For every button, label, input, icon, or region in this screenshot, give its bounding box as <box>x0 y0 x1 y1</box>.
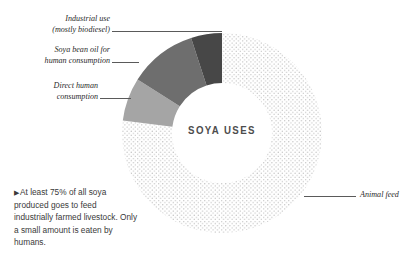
callout-soya-bean-oil-line2: human consumption <box>45 56 110 67</box>
infographic-canvas: SOYA USES Industrial use (mostly biodies… <box>0 0 416 271</box>
note-bullet-arrow-icon: ▶ <box>14 189 19 196</box>
callout-direct-human-consumption-line2: consumption <box>54 92 98 103</box>
callout-industrial-use-line1: Industrial use <box>52 14 110 25</box>
callout-soya-bean-oil: Soya bean oil for human consumption <box>45 45 110 66</box>
callout-animal-feed: Animal feed <box>360 190 399 201</box>
note-block: ▶At least 75% of all soya produced goes … <box>14 186 138 248</box>
callout-direct-human-consumption: Direct human consumption <box>54 81 98 102</box>
callout-direct-human-consumption-line1: Direct human <box>54 81 98 92</box>
callout-industrial-use-line2: (mostly biodiesel) <box>52 25 110 36</box>
leader-line-soya-bean-oil <box>112 62 139 63</box>
leader-line-direct-human-consumption <box>100 98 131 99</box>
callout-industrial-use: Industrial use (mostly biodiesel) <box>52 14 110 35</box>
leader-line-industrial-use <box>112 31 222 32</box>
callout-animal-feed-line1: Animal feed <box>360 190 399 201</box>
note-text: At least 75% of all soya produced goes t… <box>14 187 137 247</box>
callout-soya-bean-oil-line1: Soya bean oil for <box>45 45 110 56</box>
leader-line-animal-feed <box>304 196 356 197</box>
chart-center-title: SOYA USES <box>178 124 266 136</box>
